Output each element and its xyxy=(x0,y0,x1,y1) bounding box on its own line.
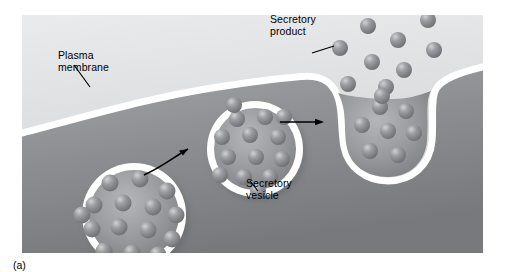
label-secretory-vesicle: Secretory vesicle xyxy=(246,178,292,201)
figure-caption: (a) xyxy=(13,259,26,271)
label-secretory-product: Secretory product xyxy=(270,14,316,37)
label-plasma-membrane: Plasma membrane xyxy=(58,50,109,73)
figure-canvas: Plasma membrane Secretory product Secret… xyxy=(0,0,508,272)
